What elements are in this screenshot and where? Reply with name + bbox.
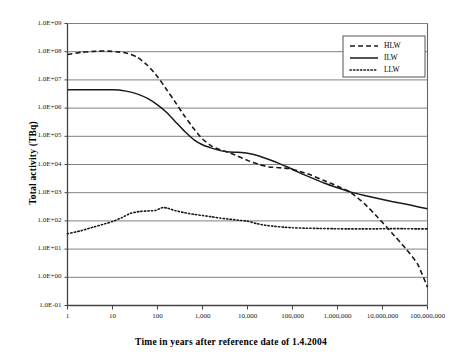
y-tick-label: 1.0E+04 bbox=[20, 160, 62, 168]
y-tick-label: 1.0E+05 bbox=[20, 131, 62, 139]
y-tick-label: 1.0E+07 bbox=[20, 75, 62, 83]
y-axis-title: Total activity (TBq) bbox=[28, 68, 38, 258]
legend-label-hlw: HLW bbox=[384, 41, 401, 50]
data-series-group bbox=[68, 51, 428, 287]
y-tick-label: 1.0E+09 bbox=[20, 19, 62, 27]
y-tick-label: 1.0E+01 bbox=[20, 244, 62, 252]
x-axis-title: Time in years after reference date of 1.… bbox=[0, 337, 462, 347]
legend-label-llw: LLW bbox=[384, 65, 400, 74]
y-tick-label: 1.0E+08 bbox=[20, 47, 62, 55]
y-tick-label: 1.0E+03 bbox=[20, 188, 62, 196]
activity-decay-chart: 1.0E-011.0E+001.0E+011.0E+021.0E+031.0E+… bbox=[0, 0, 462, 362]
series-line-ilw bbox=[68, 90, 428, 209]
series-line-hlw bbox=[68, 51, 428, 287]
y-tick-label: 1.0E+00 bbox=[20, 272, 62, 280]
y-tick-label: 1.0E+06 bbox=[20, 103, 62, 111]
x-tick-label: 100,000,000 bbox=[393, 312, 462, 320]
y-tick-label: 1.0E-01 bbox=[20, 301, 62, 309]
y-tick-label: 1.0E+02 bbox=[20, 216, 62, 224]
legend-label-ilw: ILW bbox=[384, 53, 398, 62]
